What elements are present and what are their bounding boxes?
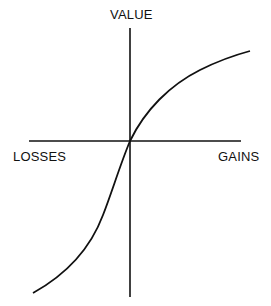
x-axis-negative-label: LOSSES bbox=[13, 149, 66, 164]
y-axis-label: VALUE bbox=[110, 7, 153, 22]
value-curve bbox=[33, 51, 250, 293]
x-axis-positive-label: GAINS bbox=[218, 149, 259, 164]
